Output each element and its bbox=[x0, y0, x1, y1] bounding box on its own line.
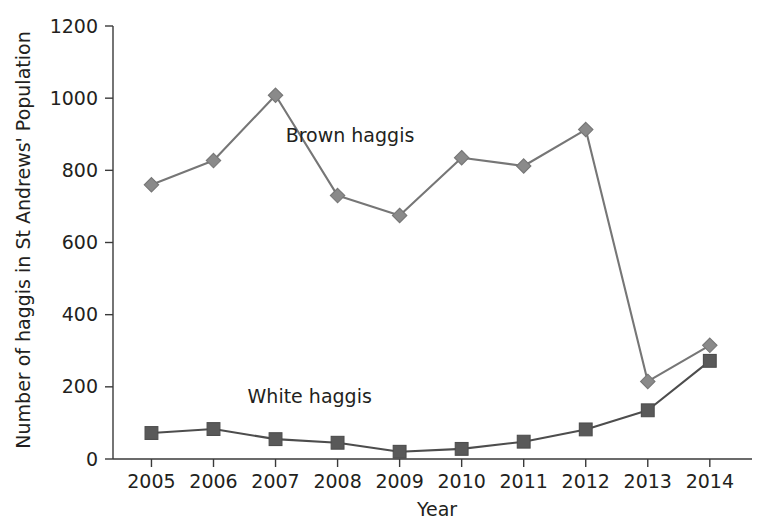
y-tick-label: 800 bbox=[62, 159, 98, 181]
series-annotation-label: White haggis bbox=[248, 385, 372, 407]
y-tick-label: 400 bbox=[62, 303, 98, 325]
line-chart: 020040060080010001200 200520062007200820… bbox=[0, 0, 766, 529]
x-tick-label: 2013 bbox=[624, 470, 672, 492]
series-white-haggis bbox=[145, 354, 716, 458]
y-axis-title: Number of haggis in St Andrews' Populati… bbox=[12, 31, 34, 448]
x-tick-label: 2012 bbox=[562, 470, 610, 492]
x-axis-title: Year bbox=[416, 498, 457, 520]
x-tick-label: 2011 bbox=[500, 470, 548, 492]
data-point-marker bbox=[331, 436, 344, 449]
data-series-group bbox=[144, 88, 717, 458]
data-point-marker bbox=[207, 423, 220, 436]
series-brown-haggis bbox=[144, 88, 717, 389]
data-point-marker bbox=[145, 427, 158, 440]
data-point-marker bbox=[393, 445, 406, 458]
data-point-marker bbox=[144, 178, 158, 192]
data-point-marker bbox=[703, 338, 717, 352]
series-annotations: Brown haggisWhite haggis bbox=[248, 124, 415, 408]
x-tick-label: 2007 bbox=[251, 470, 299, 492]
x-tick-label: 2014 bbox=[686, 470, 734, 492]
data-point-marker bbox=[703, 354, 716, 367]
y-tick-label: 200 bbox=[62, 375, 98, 397]
y-tick-label: 1000 bbox=[50, 87, 98, 109]
y-tick-label: 0 bbox=[86, 448, 98, 470]
chart-container: 020040060080010001200 200520062007200820… bbox=[0, 0, 766, 529]
series-annotation-label: Brown haggis bbox=[286, 124, 415, 146]
x-tick-label: 2008 bbox=[313, 470, 361, 492]
x-tick-label: 2005 bbox=[127, 470, 175, 492]
x-tick-label: 2010 bbox=[437, 470, 485, 492]
y-tick-label: 600 bbox=[62, 231, 98, 253]
data-point-marker bbox=[579, 423, 592, 436]
y-tick-label: 1200 bbox=[50, 15, 98, 37]
data-point-marker bbox=[579, 122, 593, 136]
y-axis: 020040060080010001200 bbox=[50, 15, 113, 470]
data-point-marker bbox=[330, 188, 344, 202]
data-point-marker bbox=[641, 374, 655, 388]
data-point-marker bbox=[455, 443, 468, 456]
x-tick-label: 2006 bbox=[189, 470, 237, 492]
series-line bbox=[151, 95, 709, 381]
data-point-marker bbox=[517, 159, 531, 173]
data-point-marker bbox=[517, 435, 530, 448]
x-axis: 2005200620072008200920102011201220132014 bbox=[113, 459, 752, 492]
series-line bbox=[151, 361, 709, 452]
data-point-marker bbox=[641, 404, 654, 417]
data-point-marker bbox=[269, 433, 282, 446]
x-tick-label: 2009 bbox=[375, 470, 423, 492]
